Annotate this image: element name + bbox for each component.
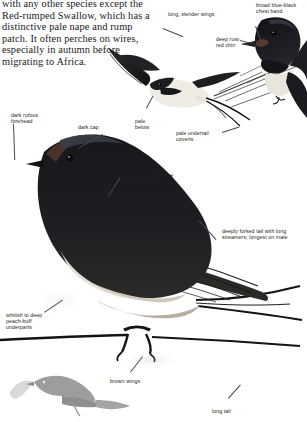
label-pale-below: pale below (135, 118, 159, 130)
label-long-tail: long tail (212, 408, 246, 414)
label-broad-chest-band: broad blue-black chest band (256, 2, 304, 14)
label-pale-undertail-coverts: pale undertail coverts (176, 130, 222, 142)
label-brown-wings: brown wings (110, 378, 144, 384)
label-deep-rust-red-chin: deep rust-red chin (216, 36, 242, 48)
label-dark-cap: dark cap (78, 124, 112, 130)
label-long-slender-wings: long, slender wings (168, 11, 220, 17)
label-glossy-blue-upperparts: deep, glossy blue upperparts (131, 172, 187, 184)
intro-paragraph: with any other species except the Red-ru… (2, 0, 154, 68)
label-whitish-underparts: whitish to deep peach-buff underparts (6, 312, 46, 331)
label-dark-rufous-forehead: dark rufous forehead (11, 112, 59, 124)
bird-guide-page: with any other species except the Red-ru… (0, 0, 307, 422)
swallow-head-illustration (214, 17, 307, 118)
label-deeply-forked-tail: deeply forked tail with long streamers; … (222, 228, 298, 240)
